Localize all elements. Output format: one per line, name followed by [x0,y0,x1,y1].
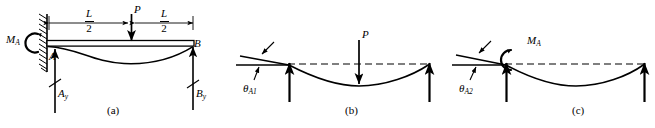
dimension-label-left-a: L 2 [80,8,98,34]
angle-pointer-b [254,67,259,80]
caption-panel-c: (c) [572,105,584,116]
tangent-line-c [456,55,506,65]
tangent-pointer-c [479,41,491,53]
beam-a [47,41,194,47]
angle-pointer-c [470,67,476,80]
panel-c [452,41,645,102]
label-point-a: A [49,51,56,62]
tangent-pointer-b [262,42,274,54]
caption-panel-b: (b) [345,105,358,116]
label-reaction-b-y: By [196,88,206,101]
panel-b [236,40,430,102]
beam-superposition-figure [0,0,655,128]
label-moment-a: MA [6,34,20,47]
label-load-b: P [362,29,369,40]
label-load-a: P [134,4,141,15]
wall-hatching-a [39,14,47,72]
label-slope-b: θA1 [243,83,257,96]
tangent-line-b [240,56,289,65]
label-point-b: B [194,38,201,49]
dimension-label-right-a: L 2 [155,8,173,34]
reaction-arrow-b-y [187,47,199,110]
deflection-curve-a [48,47,193,64]
caption-panel-a: (a) [107,105,119,116]
label-slope-c: θA2 [459,83,473,96]
label-moment-c: MA [527,35,541,48]
deflection-curve-c [506,65,644,87]
label-reaction-a-y: Ay [58,88,68,101]
